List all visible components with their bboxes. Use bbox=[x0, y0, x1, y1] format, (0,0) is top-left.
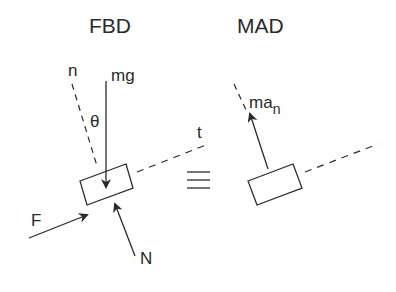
t-axis-dashed bbox=[137, 145, 206, 172]
mad-title: MAD bbox=[237, 15, 284, 36]
diagram-canvas bbox=[0, 0, 396, 292]
block-mad bbox=[248, 164, 302, 205]
fbd-title: FBD bbox=[89, 15, 131, 36]
t-label: t bbox=[197, 124, 202, 141]
ma-n-label: man bbox=[249, 94, 280, 111]
F-label: F bbox=[31, 212, 41, 229]
theta-label: θ bbox=[90, 113, 99, 130]
N-arrow bbox=[115, 204, 135, 256]
N-label: N bbox=[140, 250, 152, 267]
ma-n-arrow bbox=[250, 114, 268, 169]
n-label: n bbox=[68, 62, 77, 79]
n-axis-dashed-mad bbox=[234, 84, 247, 112]
ma-subscript: n bbox=[273, 101, 281, 117]
mg-label: mg bbox=[111, 67, 135, 84]
equivalence-sign bbox=[187, 172, 210, 188]
t-axis-dashed-mad bbox=[305, 144, 378, 172]
ma-text: ma bbox=[249, 93, 273, 112]
fbd-diagram bbox=[29, 81, 206, 256]
